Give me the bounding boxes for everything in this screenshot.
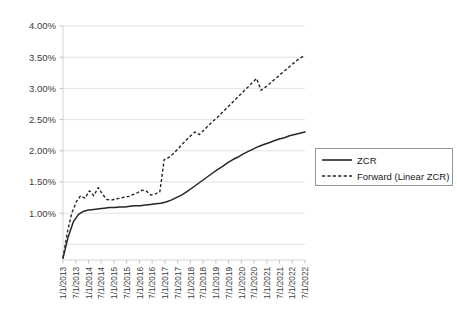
y-tick-label-0: 4.00% — [29, 20, 56, 31]
legend-label-zcr: ZCR — [357, 155, 377, 166]
series-group — [63, 55, 305, 258]
series-line-forward-linear-zcr — [63, 55, 305, 258]
x-tick-label-18: 1/1/2022 — [288, 267, 297, 299]
x-tick-label-14: 1/1/2020 — [238, 267, 247, 299]
x-tick-label-12: 1/1/2019 — [212, 267, 221, 299]
y-tick-labels: 4.00%3.50%3.00%2.50%2.00%1.50%1.00% — [29, 20, 56, 218]
x-tick-label-11: 7/1/2018 — [199, 267, 208, 299]
y-tick-label-2: 3.00% — [29, 83, 56, 94]
x-tick-label-13: 7/1/2019 — [225, 267, 234, 299]
x-tick-label-15: 7/1/2020 — [250, 267, 259, 299]
x-tick-label-19: 7/1/2022 — [301, 267, 310, 299]
y-tick-marks — [60, 26, 64, 213]
zero-coupon-rate-chart: 4.00%3.50%3.00%2.50%2.00%1.50%1.00% 1/1/… — [0, 0, 457, 336]
x-tick-label-1: 7/1/2013 — [72, 267, 81, 299]
x-tick-labels: 1/1/20137/1/20131/1/20147/1/20141/1/2015… — [59, 267, 310, 299]
legend-label-forward-linear-zcr: Forward (Linear ZCR) — [357, 171, 449, 182]
y-axis-group: 4.00%3.50%3.00%2.50%2.00%1.50%1.00% — [29, 20, 63, 260]
legend: ZCR Forward (Linear ZCR) — [316, 149, 453, 186]
x-axis-group: 1/1/20137/1/20131/1/20147/1/20141/1/2015… — [59, 260, 310, 299]
x-tick-label-16: 1/1/2021 — [263, 267, 272, 299]
x-tick-label-8: 1/1/2017 — [161, 267, 170, 299]
y-tick-label-1: 3.50% — [29, 52, 56, 63]
y-tick-label-5: 1.50% — [29, 176, 56, 187]
x-tick-label-5: 7/1/2015 — [123, 267, 132, 299]
x-tick-label-3: 7/1/2014 — [97, 267, 106, 299]
x-tick-label-2: 1/1/2014 — [85, 267, 94, 299]
chart-canvas: 4.00%3.50%3.00%2.50%2.00%1.50%1.00% 1/1/… — [0, 0, 457, 336]
x-tick-label-9: 7/1/2017 — [174, 267, 183, 299]
x-tick-label-7: 7/1/2016 — [148, 267, 157, 299]
x-tick-marks — [63, 260, 305, 264]
x-tick-label-17: 7/1/2021 — [276, 267, 285, 299]
y-tick-label-3: 2.50% — [29, 114, 56, 125]
x-tick-label-4: 1/1/2015 — [110, 267, 119, 299]
y-tick-label-4: 2.00% — [29, 145, 56, 156]
x-tick-label-0: 1/1/2013 — [59, 267, 68, 299]
gridlines-group — [63, 26, 305, 244]
y-tick-label-6: 1.00% — [29, 208, 56, 219]
x-tick-label-6: 1/1/2016 — [136, 267, 145, 299]
x-tick-label-10: 1/1/2018 — [187, 267, 196, 299]
